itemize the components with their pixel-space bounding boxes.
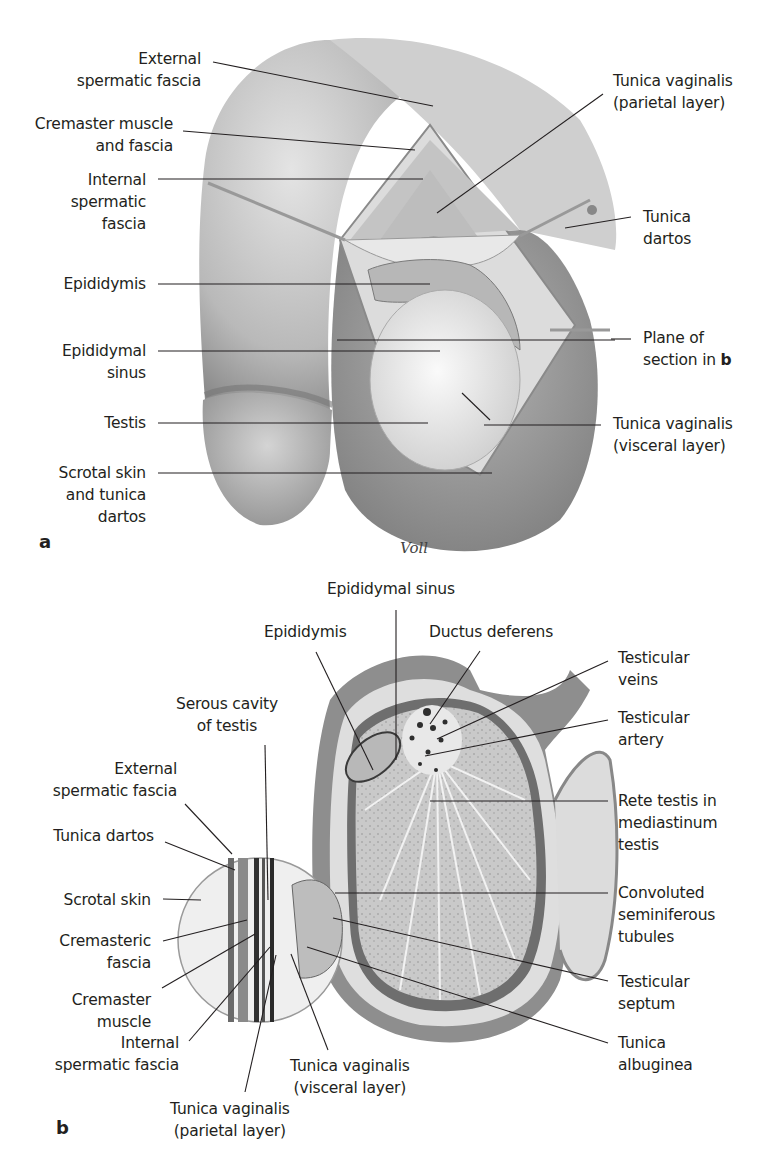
label-b-scrotal-skin: Scrotal skin	[64, 889, 151, 911]
label-b-tunica-albuginea: Tunica albuginea	[618, 1032, 693, 1076]
label-a-testis: Testis	[104, 412, 146, 434]
panel-letter-a: a	[39, 531, 51, 552]
label-b-testicular-veins: Testicular veins	[618, 647, 689, 691]
label-b-rete-testis: Rete testis in mediastinum testis	[618, 790, 717, 856]
panel-reference-b: b	[721, 351, 732, 369]
label-a-plane-of-section: Plane of section in b	[643, 327, 732, 371]
panel-a-artwork: Voll	[199, 38, 616, 557]
label-b-ductus-deferens: Ductus deferens	[429, 621, 553, 643]
label-a-tunica-vaginalis-visceral: Tunica vaginalis (visceral layer)	[613, 413, 733, 457]
label-b-internal-spermatic-fascia: Internal spermatic fascia	[55, 1032, 179, 1076]
label-b-epididymis: Epididymis	[264, 621, 347, 643]
artist-signature: Voll	[400, 539, 428, 557]
label-a-tunica-vaginalis-parietal: Tunica vaginalis (parietal layer)	[613, 70, 733, 114]
label-a-tunica-dartos: Tunica dartos	[643, 206, 691, 250]
panel-letter-b: b	[56, 1117, 69, 1138]
label-b-tunica-dartos: Tunica dartos	[53, 825, 154, 847]
label-b-testicular-septum: Testicular septum	[618, 971, 689, 1015]
label-a-cremaster-muscle-fascia: Cremaster muscle and fascia	[35, 113, 173, 157]
label-b-tunica-vaginalis-parietal: Tunica vaginalis (parietal layer)	[170, 1098, 290, 1142]
label-b-testicular-artery: Testicular artery	[618, 707, 689, 751]
label-a-external-spermatic-fascia: External spermatic fascia	[77, 48, 201, 92]
label-b-cremasteric-fascia: Cremasteric fascia	[59, 930, 151, 974]
label-b-tunica-vaginalis-visceral: Tunica vaginalis (visceral layer)	[290, 1055, 410, 1099]
label-a-internal-spermatic-fascia: Internal spermatic fascia	[71, 169, 146, 235]
label-b-convoluted-seminiferous-tubules: Convoluted seminiferous tubules	[618, 882, 715, 948]
label-b-external-spermatic-fascia: External spermatic fascia	[53, 758, 177, 802]
label-a-epididymis: Epididymis	[63, 273, 146, 295]
label-a-scrotal-skin-dartos: Scrotal skin and tunica dartos	[59, 462, 146, 528]
label-b-serous-cavity: Serous cavity of testis	[176, 693, 278, 737]
label-b-epididymal-sinus: Epididymal sinus	[327, 578, 455, 600]
label-b-cremaster-muscle: Cremaster muscle	[72, 989, 151, 1033]
label-a-epididymal-sinus: Epididymal sinus	[62, 340, 146, 384]
